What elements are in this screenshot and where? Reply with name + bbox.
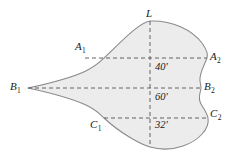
label-C2: C2 (210, 108, 221, 119)
dimension-40ft: 40' (155, 62, 168, 73)
label-A1: A1 (75, 41, 85, 52)
dimension-60ft: 60' (155, 92, 168, 103)
label-L: L (146, 8, 152, 19)
dimension-32ft: 32' (155, 120, 168, 131)
label-B1: B1 (10, 81, 20, 92)
label-B2: B2 (204, 81, 214, 92)
region-outline (28, 21, 208, 149)
label-A2: A2 (210, 51, 220, 62)
label-C1: C1 (90, 119, 101, 130)
survey-region-figure (0, 0, 237, 166)
